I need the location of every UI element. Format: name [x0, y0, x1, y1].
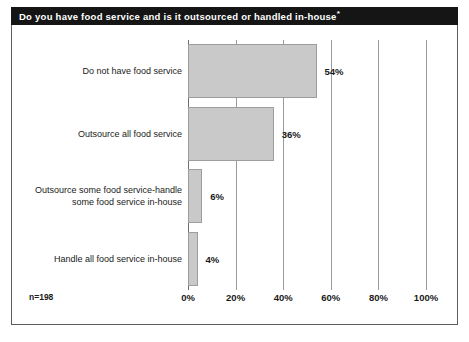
x-tick-label: 40%	[274, 292, 293, 303]
bar-row: 4%	[188, 232, 426, 286]
x-tick-label: 100%	[414, 292, 438, 303]
bar-value-label: 4%	[206, 253, 220, 264]
chart-title-text: Do you have food service and is it outso…	[19, 12, 337, 23]
bar-value-label: 6%	[210, 191, 224, 202]
chart-screenshot: Do you have food service and is it outso…	[0, 0, 469, 342]
bar-series: 54%36%6%4%	[188, 40, 426, 290]
bar-value-label: 36%	[282, 128, 301, 139]
bar[interactable]	[188, 44, 317, 98]
bar-row: 6%	[188, 169, 426, 223]
bar-value-label: 54%	[325, 66, 344, 77]
x-tick-label: 20%	[226, 292, 245, 303]
x-tick-label: 60%	[321, 292, 340, 303]
bar[interactable]	[188, 232, 198, 286]
bar[interactable]	[188, 169, 202, 223]
bar-row: 36%	[188, 107, 426, 161]
bar[interactable]	[188, 107, 274, 161]
x-axis-tick-labels: 0%20%40%60%80%100%	[188, 292, 426, 308]
category-label: Outsource some food service-handle some …	[35, 184, 182, 208]
sample-size-annotation: n=198	[29, 292, 53, 302]
bar-row: 54%	[188, 44, 426, 98]
category-label: Do not have food service	[82, 65, 182, 77]
title-asterisk: *	[337, 9, 340, 18]
x-tick-label: 80%	[369, 292, 388, 303]
chart-title-bar: Do you have food service and is it outso…	[11, 7, 458, 25]
category-label: Handle all food service in-house	[54, 253, 182, 265]
page-title: Do you have food service and is it outso…	[11, 9, 340, 22]
gridline-100%	[426, 40, 427, 290]
x-tick-label: 0%	[181, 292, 195, 303]
category-axis-labels: Do not have food serviceOutsource all fo…	[14, 40, 182, 290]
category-label: Outsource all food service	[78, 128, 182, 140]
